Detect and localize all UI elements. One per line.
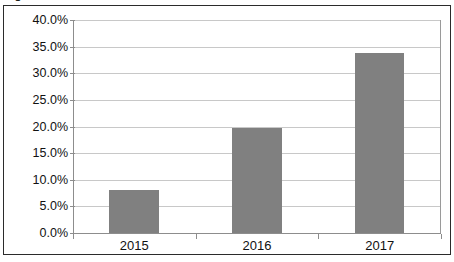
y-axis-tick-label: 35.0% <box>4 40 68 54</box>
y-axis-tick-label: 15.0% <box>4 146 68 160</box>
x-axis <box>73 233 441 234</box>
x-axis-tick <box>441 234 442 239</box>
bar <box>355 53 405 233</box>
y-axis-tick-label: 20.0% <box>4 120 68 134</box>
y-axis-tick-label: 30.0% <box>4 66 68 80</box>
y-axis-tick-label: 0.0% <box>4 226 68 240</box>
x-axis-tick-label: 2017 <box>365 238 394 253</box>
figure-caption: Figure 2.7: 4G/LTE subscribers in Latin … <box>4 0 270 3</box>
x-axis-tick-label: 2016 <box>243 238 272 253</box>
y-axis-tick-label: 40.0% <box>4 13 68 27</box>
y-axis-labels: 0.0%5.0%10.0%15.0%20.0%25.0%30.0%35.0%40… <box>4 20 68 233</box>
chart-canvas: 0.0%5.0%10.0%15.0%20.0%25.0%30.0%35.0%40… <box>4 6 450 254</box>
chart-frame: 0.0%5.0%10.0%15.0%20.0%25.0%30.0%35.0%40… <box>3 5 451 255</box>
x-axis-labels: 201520162017 <box>73 238 441 258</box>
y-axis-tick-label: 25.0% <box>4 93 68 107</box>
y-axis-tick-label: 5.0% <box>4 199 68 213</box>
y-axis-tick-label: 10.0% <box>4 173 68 187</box>
bar <box>109 190 159 233</box>
bar-series <box>73 20 441 233</box>
bar <box>232 128 282 233</box>
x-axis-tick-label: 2015 <box>120 238 149 253</box>
